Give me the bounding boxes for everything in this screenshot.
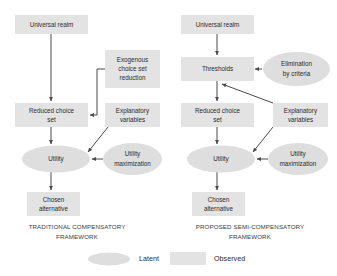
node-chosen-alternative-left-line2: alternative [39, 205, 69, 212]
node-explanatory-variables-right-line2: variables [288, 116, 313, 123]
node-thresholds-right: Thresholds [181, 57, 254, 81]
node-reduced-choice-set-right-line1: Reduced choice [195, 107, 241, 114]
node-reduced-choice-set-left-line1: Reduced choice [29, 107, 75, 114]
legend-observed-label: Observed [214, 254, 245, 263]
node-explanatory-variables-left-line1: Explanatory [116, 107, 150, 115]
node-exogenous-line3: reduction [120, 74, 146, 81]
node-utility-right-label: Utility [213, 155, 229, 163]
node-reduced-choice-set-left-line2: set [47, 116, 56, 123]
node-utility-maximization-right-line2: maximization [280, 160, 317, 167]
node-chosen-alternative-left: Chosen alternative [27, 192, 80, 216]
node-explanatory-variables-left-line2: variables [120, 116, 145, 123]
right-panel-caption-line2: FRAMEWORK [229, 233, 272, 240]
node-utility-maximization-right-line1: Utility [290, 150, 306, 158]
left-panel-caption-line2: FRAMEWORK [56, 233, 99, 240]
node-utility-left: Utility [22, 146, 90, 173]
node-exogenous-line1: Exogenous [117, 56, 149, 64]
legend-observed-swatch [170, 252, 206, 265]
legend-latent-swatch [88, 253, 130, 266]
node-chosen-alternative-right-line2: alternative [204, 205, 234, 212]
node-universal-realm-right: Universal realm [181, 15, 254, 34]
node-reduced-choice-set-left: Reduced choice set [15, 103, 88, 127]
framework-comparison-diagram: Universal realm Exogenous choice set red… [0, 0, 337, 276]
node-utility-maximization-left-line2: maximization [114, 160, 151, 167]
node-chosen-alternative-right-line1: Chosen [208, 196, 230, 203]
node-utility-maximization-left: Utility maximization [103, 143, 162, 175]
node-explanatory-variables-left: Explanatory variables [105, 103, 160, 127]
node-reduced-choice-set-right-line2: set [213, 116, 222, 123]
node-utility-left-label: Utility [48, 155, 64, 163]
node-utility-maximization-right: Utility maximization [268, 143, 328, 175]
node-utility-maximization-left-line1: Utility [125, 150, 141, 158]
legend-latent-label: Latent [139, 254, 159, 263]
node-utility-right: Utility [187, 146, 255, 173]
node-explanatory-variables-right: Explanatory variables [273, 103, 328, 127]
right-panel-caption-line1: PROPOSED SEMI-COMPENSATORY [196, 223, 305, 230]
node-thresholds-right-label: Thresholds [202, 65, 233, 72]
node-exogenous-line2: choice set [118, 65, 147, 72]
node-exogenous-choice-set-reduction-left: Exogenous choice set reduction [105, 50, 160, 88]
left-panel-caption-line1: TRADITIONAL COMPENSATORY [29, 223, 126, 230]
node-chosen-alternative-left-line1: Chosen [43, 196, 65, 203]
node-chosen-alternative-right: Chosen alternative [192, 192, 245, 216]
node-explanatory-variables-right-line1: Explanatory [284, 107, 318, 115]
node-reduced-choice-set-right: Reduced choice set [181, 103, 254, 127]
node-universal-realm-right-label: Universal realm [196, 21, 240, 28]
node-elimination-right-line1: Elimination [281, 60, 312, 67]
node-universal-realm-left: Universal realm [15, 15, 88, 34]
node-elimination-by-criteria-right: Elimination by criteria [263, 52, 330, 86]
node-universal-realm-left-label: Universal realm [30, 21, 74, 28]
node-elimination-right-line2: by criteria [283, 70, 311, 78]
